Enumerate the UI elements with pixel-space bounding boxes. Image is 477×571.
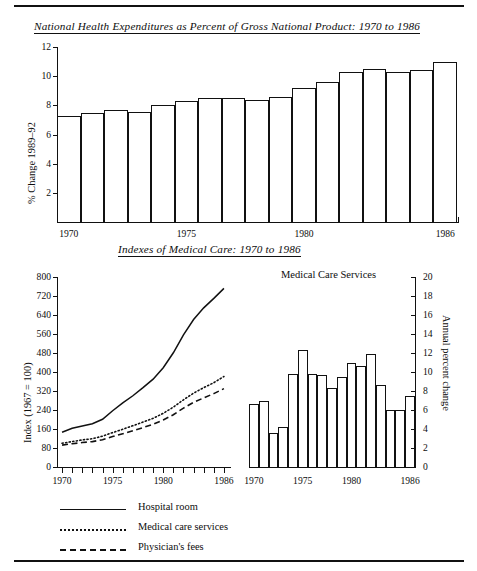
figure1-x-axis-end-tick [458, 217, 459, 222]
figure1-bar [433, 62, 457, 222]
figure1-bar [104, 110, 128, 222]
figure2-left-y-tick [53, 277, 58, 278]
figure2-left-y-tick-label: 560 [27, 328, 51, 339]
figure2-right-bar [298, 350, 308, 467]
figure1-bar [386, 72, 410, 222]
figure2-left-x-tick [103, 468, 104, 473]
rule-top [14, 5, 464, 7]
figure2-right-bar [376, 385, 386, 467]
figure1-y-tick [53, 47, 58, 48]
figure-page: National Health Expenditures as Percent … [0, 0, 477, 571]
figure2-left-x-tick [173, 468, 174, 473]
figure2-right-bar [366, 354, 376, 467]
figure2-left-x-tick [183, 468, 184, 473]
figure1-bar [363, 69, 387, 222]
figure2-left-y-tick-label: 240 [27, 404, 51, 415]
figure2-right-y-tick-label: 10 [423, 366, 441, 377]
figure2-right-y-tick [411, 277, 416, 278]
figure1-y-tick [53, 193, 58, 194]
figure2-left-y-tick-label: 80 [27, 442, 51, 453]
figure2-right-plot-area: 20181614121086420 1970197519801986 [249, 277, 415, 467]
figure2-right-y-tick [411, 353, 416, 354]
figure1-bar [128, 112, 152, 222]
figure2-right-bar [317, 375, 327, 467]
figure1-bar [245, 100, 269, 222]
legend-item-label: Hospital room [138, 501, 198, 512]
figure2-left-y-tick-label: 800 [27, 271, 51, 282]
figure1-y-tick-label: 12 [31, 41, 51, 52]
figure2-right-bar [288, 374, 298, 467]
figure1-x-tick-label: 1975 [170, 228, 202, 239]
figure2-left-y-tick-label: 0 [27, 461, 51, 472]
figure2-left-y-tick [53, 353, 58, 354]
figure2-right-y-tick-label: 8 [423, 385, 441, 396]
figure1-bar [151, 105, 175, 222]
figure2-left-y-tick-label: 400 [27, 366, 51, 377]
figure2-left-y-tick [53, 429, 58, 430]
figure2-right-y-tick-label: 14 [423, 328, 441, 339]
figure1-x-tick-label: 1986 [429, 228, 461, 239]
figure1-x-tick-label: 1970 [53, 228, 85, 239]
rule-bottom [14, 560, 464, 562]
legend-item-label: Medical care services [138, 521, 228, 532]
figure2-left-x-tick-label: 1970 [46, 475, 78, 486]
figure1-y-tick [53, 135, 58, 136]
figure2-right-x-tick-label: 1970 [238, 475, 270, 486]
figure2-left-y-tick-label: 320 [27, 385, 51, 396]
figure1-y-tick-label: 10 [31, 70, 51, 81]
figure2-right-y-tick [411, 391, 416, 392]
figure2-left-y-tick-label: 480 [27, 347, 51, 358]
figure2-left-y-tick [53, 391, 58, 392]
figure2-right-bar [395, 410, 405, 467]
figure1-bar [292, 88, 316, 222]
figure1-y-tick-label: 6 [31, 129, 51, 140]
figure2-left-x-tick [163, 468, 164, 473]
figure2-right-bar [278, 427, 288, 467]
figure2-right-y-tick [411, 410, 416, 411]
figure2-left-x-tick [204, 468, 205, 473]
legend-item-label: Physician's fees [138, 541, 204, 552]
figure2-left-x-tick-label: 1986 [208, 475, 240, 486]
figure2-right-y-tick-label: 20 [423, 271, 441, 282]
figure2-right-y-axis-label: Annual percent change [441, 315, 452, 411]
figure1-bar [339, 72, 363, 222]
figure1-x-tick-label: 1980 [288, 228, 320, 239]
figure2-right-y-tick [411, 334, 416, 335]
figure1-y-tick [53, 76, 58, 77]
figure2-left-x-tick [224, 468, 225, 473]
figure1-bar [198, 98, 222, 222]
figure2-title: Indexes of Medical Care: 1970 to 1986 [118, 243, 301, 257]
legend-swatch-solid [60, 509, 126, 510]
figure1-bar [410, 70, 434, 222]
figure2-left-x-tick [92, 468, 93, 473]
figure1-plot-area: 12108642 1970197519801986 [57, 47, 457, 222]
figure2-right-x-tick-label: 1986 [394, 475, 426, 486]
figure2-line-solid [62, 288, 224, 432]
figure2-left-y-tick [53, 296, 58, 297]
figure2-right-bar [347, 363, 357, 467]
legend-swatch-dashed [60, 549, 126, 551]
figure2-left-x-tick [133, 468, 134, 473]
legend-swatch-dotted [60, 529, 126, 531]
figure2-line-dotted [62, 377, 224, 444]
figure2-right-y-tick-label: 18 [423, 290, 441, 301]
figure1-y-tick [53, 105, 58, 106]
figure1-bar [57, 116, 81, 222]
figure1-bar [175, 101, 199, 222]
figure1-bar [316, 82, 340, 222]
figure2-right-origin-stub [249, 460, 250, 467]
figure2-right-y-tick-label: 2 [423, 442, 441, 453]
figure2-left-x-tick [123, 468, 124, 473]
figure1-bar [81, 113, 105, 222]
figure2-right-x-tick-label: 1980 [336, 475, 368, 486]
figure2-right-bar [259, 401, 269, 467]
figure2-left-y-tick [53, 448, 58, 449]
figure2-right-y-tick [411, 372, 416, 373]
figure1-bar [269, 97, 293, 222]
figure2-right-y-tick-label: 6 [423, 404, 441, 415]
figure2-right-bar [308, 374, 318, 467]
figure2-right-y-tick-label: 12 [423, 347, 441, 358]
figure1-bar [222, 98, 246, 222]
figure1-y-tick-label: 8 [31, 99, 51, 110]
figure2-left-plot-area: 800720640560480400320240160800 197019751… [57, 277, 229, 467]
